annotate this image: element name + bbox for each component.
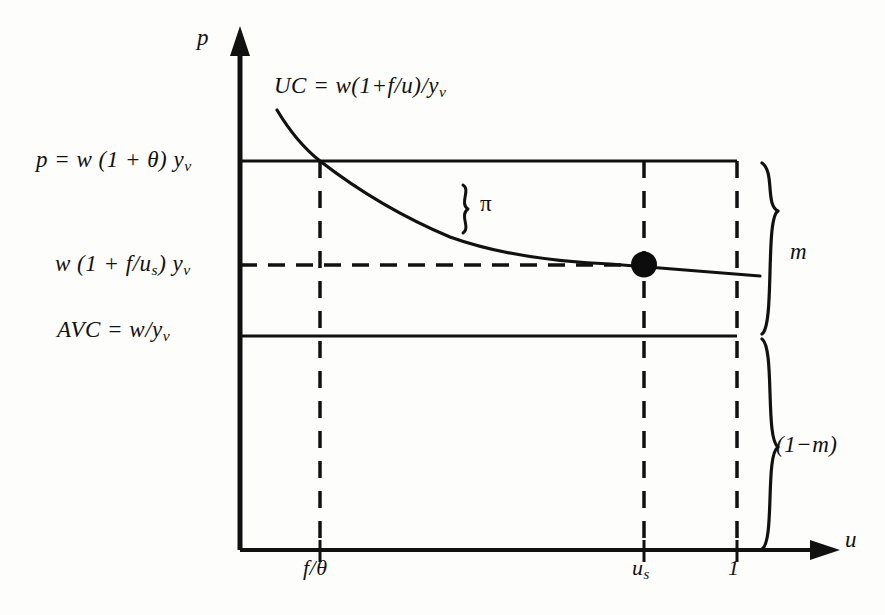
avc-line-label: AVC = w/yv xyxy=(57,318,170,344)
equilibrium-point-marker xyxy=(631,252,657,278)
brace-m-label: m xyxy=(790,240,807,263)
price-line-label-text: p = w (1 + θ) y xyxy=(36,147,184,172)
uc-curve-label-text: UC = w(1+f/u)/y xyxy=(274,73,439,98)
y-axis-label: p xyxy=(197,26,209,49)
unit-cost-at-us-label: w (1 + f/us) yv xyxy=(55,252,191,278)
profit-margin-label: π xyxy=(480,192,492,215)
uc-curve-label-subscript: v xyxy=(439,83,446,100)
avc-label-text: AVC = w/y xyxy=(57,317,163,342)
xtick-label-us: us xyxy=(632,557,650,582)
pi-brace xyxy=(463,185,468,233)
xtick-label-one: 1 xyxy=(728,557,740,579)
xtick-label-us-main: u xyxy=(632,555,644,580)
unit-cost-label-sub-v: v xyxy=(183,261,190,278)
avc-label-subscript: v xyxy=(163,327,170,344)
economics-figure: p u UC = w(1+f/u)/yv p = w (1 + θ) yv w … xyxy=(0,0,885,615)
unit-cost-label-suffix: ) y xyxy=(158,251,183,276)
price-line-label: p = w (1 + θ) yv xyxy=(36,148,192,174)
price-line-label-subscript: v xyxy=(184,157,191,174)
x-axis-label: u xyxy=(845,528,857,551)
brace-m xyxy=(762,163,778,334)
xtick-label-f-theta: f/θ xyxy=(303,557,328,579)
y-axis xyxy=(230,26,250,550)
uc-curve xyxy=(277,110,760,276)
x-axis xyxy=(240,540,840,560)
xtick-label-us-subscript: s xyxy=(644,566,650,582)
uc-curve-label: UC = w(1+f/u)/yv xyxy=(274,74,446,100)
brace-one-minus-m-label: (1−m) xyxy=(776,433,837,456)
unit-cost-label-prefix: w (1 + f/u xyxy=(55,251,152,276)
